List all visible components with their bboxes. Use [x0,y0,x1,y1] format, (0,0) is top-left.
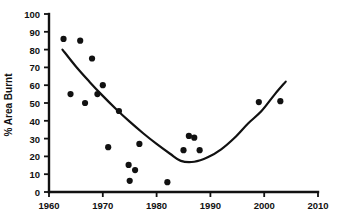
data-point [116,108,122,114]
data-point [126,162,132,168]
x-tick-label: 1970 [92,200,113,211]
data-point [105,144,111,150]
y-tick-label: 20 [29,151,40,162]
y-tick-label: 90 [29,27,40,38]
y-axis-label-group: % Area Burnt [3,73,14,137]
data-point [82,100,88,106]
data-point [67,91,73,97]
y-axis-label: % Area Burnt [3,73,14,137]
chart-figure: % Area Burnt 100 90 80 70 60 50 40 30 20… [0,0,344,221]
data-point [77,38,83,44]
y-tick-label: 60 [29,80,40,91]
x-axis [49,192,318,197]
data-point [180,147,186,153]
data-point [256,99,262,105]
scatter-plot-canvas: % Area Burnt 100 90 80 70 60 50 40 30 20… [0,0,344,221]
trend-curve [62,50,285,162]
y-tick-label: 100 [24,9,40,20]
y-tick-label: 30 [29,134,40,145]
data-point [94,91,100,97]
y-axis [44,14,49,192]
y-tick-label: 80 [29,45,40,56]
y-tick-labels: 100 90 80 70 60 50 40 30 20 10 0 [24,9,40,198]
data-point [186,133,192,139]
x-tick-labels: 1960 1970 1980 1990 2000 2010 [38,200,328,211]
data-point [136,141,142,147]
data-point [197,147,203,153]
y-tick-label: 40 [29,116,40,127]
x-tick-label: 2010 [307,200,328,211]
y-tick-label: 0 [35,187,40,198]
y-tick-label: 10 [29,169,40,180]
y-tick-label: 50 [29,98,40,109]
x-tick-label: 2000 [254,200,275,211]
x-tick-label: 1980 [146,200,167,211]
x-tick-label: 1960 [38,200,59,211]
data-point [132,167,138,173]
data-point-group [60,36,283,185]
data-point [191,135,197,141]
data-point [100,82,106,88]
data-point [277,98,283,104]
data-point [89,55,95,61]
x-tick-label: 1990 [200,200,221,211]
data-point [127,178,133,184]
y-tick-label: 70 [29,62,40,73]
data-point [60,36,66,42]
data-point [164,179,170,185]
